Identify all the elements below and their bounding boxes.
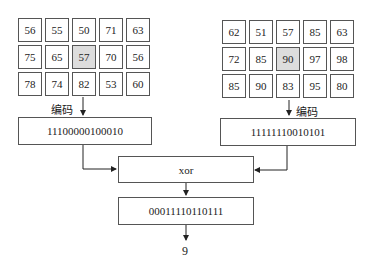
left-code-box: 11100000100010 — [18, 117, 152, 145]
left-grid-cell: 71 — [99, 18, 123, 42]
hamming-distance-result: 9 — [182, 244, 188, 259]
left-grid-cell: 78 — [18, 72, 42, 96]
xor-box: xor — [118, 156, 254, 183]
right-grid-cell: 85 — [222, 74, 246, 98]
left-grid-cell: 65 — [45, 45, 69, 69]
left-grid-cell: 55 — [45, 18, 69, 42]
left-grid-cell: 82 — [72, 72, 96, 96]
right-grid-cell: 85 — [249, 47, 273, 71]
right-grid-cell: 57 — [276, 20, 300, 44]
right-grid-cell: 80 — [330, 74, 354, 98]
right-grid-cell: 72 — [222, 47, 246, 71]
xor-result-box: 00011110110111 — [118, 197, 254, 225]
right-grid-cell: 83 — [276, 74, 300, 98]
left-grid-cell: 56 — [126, 45, 150, 69]
right-grid-cell: 95 — [303, 74, 327, 98]
right-code-box: 11111110010101 — [220, 118, 356, 146]
right-encode-label: 编码 — [296, 103, 318, 119]
left-grid-cell: 63 — [126, 18, 150, 42]
left-grid-cell: 56 — [18, 18, 42, 42]
left-grid-cell: 74 — [45, 72, 69, 96]
right-grid-cell: 62 — [222, 20, 246, 44]
right-grid-cell: 97 — [303, 47, 327, 71]
right-grid-cell: 90 — [249, 74, 273, 98]
left-encode-label: 编码 — [51, 101, 73, 117]
right-grid-cell: 90 — [276, 47, 300, 71]
left-grid-cell: 50 — [72, 18, 96, 42]
left-pixel-grid: 565550716375655770567874825360 — [18, 18, 150, 96]
right-grid-cell: 98 — [330, 47, 354, 71]
right-pixel-grid: 625157856372859097988590839580 — [222, 20, 354, 98]
left-grid-cell: 60 — [126, 72, 150, 96]
right-grid-cell: 51 — [249, 20, 273, 44]
left-grid-cell: 70 — [99, 45, 123, 69]
left-grid-cell: 53 — [99, 72, 123, 96]
right-grid-cell: 85 — [303, 20, 327, 44]
right-grid-cell: 63 — [330, 20, 354, 44]
left-grid-cell: 75 — [18, 45, 42, 69]
left-grid-cell: 57 — [72, 45, 96, 69]
